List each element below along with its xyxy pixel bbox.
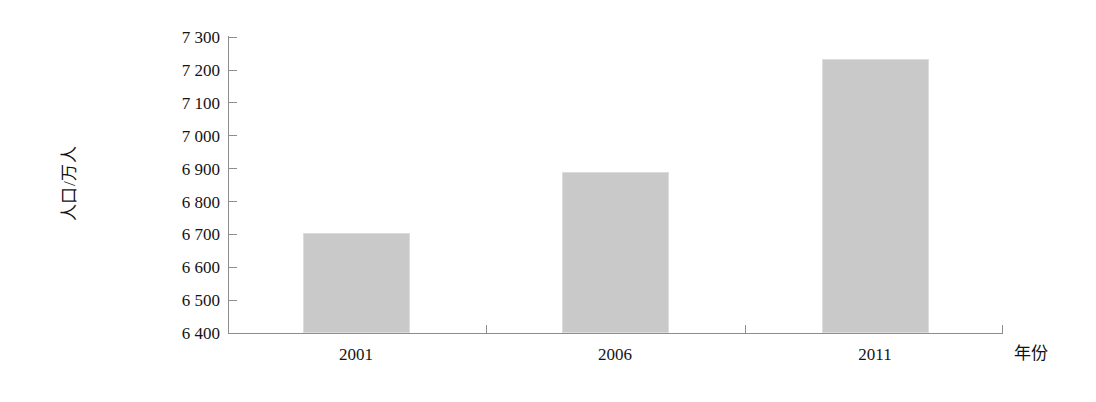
y-tick-mark [229, 201, 237, 202]
y-tick-mark [229, 267, 237, 268]
y-tick-mark [229, 300, 237, 301]
y-tick-label: 6 600 [130, 259, 220, 276]
y-tick-mark [229, 135, 237, 136]
x-axis-title: 年份 [1014, 344, 1084, 364]
x-tick-mark [745, 325, 746, 333]
x-tick-mark [486, 325, 487, 333]
bar-2001 [303, 233, 410, 333]
y-tick-label: 6 900 [130, 161, 220, 178]
bar-2006 [562, 172, 669, 333]
y-tick-label: 6 500 [130, 292, 220, 309]
y-tick-label: 7 100 [130, 95, 220, 112]
y-tick-label: 7 000 [130, 128, 220, 145]
y-axis-tick-labels: 7 300 7 200 7 100 7 000 6 900 6 800 6 70… [128, 0, 220, 402]
population-bar-chart: 人口/万人 7 300 7 200 7 100 7 000 6 900 6 80… [0, 0, 1096, 402]
y-tick-label: 6 400 [130, 325, 220, 342]
y-tick-label: 6 700 [130, 226, 220, 243]
y-tick-mark [229, 234, 237, 235]
x-axis-line [228, 333, 1003, 334]
y-tick-mark [229, 102, 237, 103]
bar-2011 [822, 59, 929, 333]
y-axis-title-text: 人口/万人 [56, 145, 81, 220]
y-tick-mark [229, 37, 237, 38]
y-tick-label: 7 300 [130, 29, 220, 46]
x-tick-label-2006: 2006 [545, 345, 685, 364]
y-tick-mark [229, 70, 237, 71]
y-tick-label: 6 800 [130, 194, 220, 211]
y-tick-mark [229, 168, 237, 169]
y-axis-line [228, 36, 229, 334]
y-axis-title: 人口/万人 [48, 108, 88, 258]
y-tick-label: 7 200 [130, 62, 220, 79]
x-tick-label-2001: 2001 [286, 345, 426, 364]
x-tick-mark [1002, 325, 1003, 333]
x-tick-label-2011: 2011 [805, 345, 945, 364]
